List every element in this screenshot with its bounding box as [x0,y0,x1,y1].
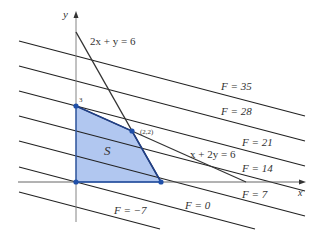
y-axis-label: y [62,8,68,20]
level-lines [19,41,305,229]
vertex-2-2 [129,128,134,133]
vertex-0-3 [73,103,78,108]
lp-diagram: y x 3 2x + y = 6 x + 2y = 6 S (2,2) F = … [0,0,320,234]
vertex-3-0 [158,179,163,184]
vertex-label-2-2: (2,2) [140,128,154,136]
region-label: S [104,143,111,158]
level-label-35: F = 35 [220,80,252,92]
level-label-0: F = 0 [184,199,211,211]
constraint-label-x-plus-2y: x + 2y = 6 [190,148,236,160]
x-axis-label: x [297,187,303,198]
level-line-21 [19,91,305,166]
x-axis-arrow-icon [299,180,306,185]
level-line-28 [19,66,305,141]
level-label-neg7: F = −7 [113,204,147,216]
level-label-7: F = 7 [241,188,268,200]
level-label-28: F = 28 [220,105,252,117]
level-line-35 [19,41,305,116]
vertex-0-0 [73,179,78,184]
constraint-label-2x-plus-y: 2x + y = 6 [90,35,136,47]
y-axis-arrow-icon [74,11,79,18]
level-label-21: F = 21 [241,136,273,148]
level-label-14: F = 14 [241,162,273,174]
y-intercept-label: 3 [79,96,83,104]
